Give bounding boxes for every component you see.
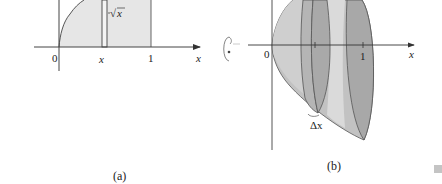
x-axis-label: x [195, 52, 201, 64]
origin-label: 0 [52, 52, 58, 64]
radical-sign: √ [110, 7, 117, 19]
delta-x-bracket [308, 114, 319, 116]
figure-b: 0 1 x Δx (b) [248, 0, 414, 173]
one-label-b: 1 [360, 50, 366, 62]
origin-label-b: 0 [264, 48, 270, 60]
x-axis-label-b: x [408, 48, 414, 60]
rotate-about-x-axis-icon [224, 37, 240, 61]
caption-b: (b) [327, 159, 341, 173]
approximating-strip [102, 0, 107, 47]
delta-x-text: Δx [310, 119, 323, 131]
strip-x-label: x [98, 53, 104, 65]
figure-canvas: 0 x 1 x √ x (a) [0, 0, 442, 184]
radicand: x [116, 7, 122, 19]
delta-x-label: Δx [310, 119, 323, 131]
caption-a: (a) [113, 169, 126, 183]
corner-marker [434, 165, 442, 173]
figure-a: 0 x 1 x √ x (a) [34, 0, 201, 183]
one-label: 1 [148, 52, 154, 64]
